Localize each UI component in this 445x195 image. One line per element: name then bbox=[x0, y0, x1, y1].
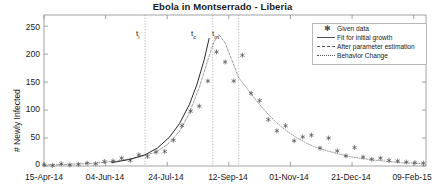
legend-item-fit-initial-growth: Fit for initial growth bbox=[313, 33, 426, 42]
legend-label-3: Behavior Change bbox=[337, 51, 388, 60]
legend-label-0: Given data bbox=[337, 24, 369, 33]
legend-item-after-parameter-estimation: After parameter estimation bbox=[313, 42, 426, 51]
legend-box: ✱ Given data Fit for initial growth Afte… bbox=[312, 23, 427, 65]
legend-item-behavior-change: Behavior Change bbox=[313, 51, 426, 60]
legend-label-1: Fit for initial growth bbox=[337, 33, 392, 42]
legend-label-2: After parameter estimation bbox=[337, 42, 415, 51]
asterisk-marker-icon: ✱ bbox=[315, 24, 337, 33]
dashed-line-icon bbox=[315, 42, 337, 51]
solid-line-icon bbox=[315, 33, 337, 42]
dotted-line-icon bbox=[315, 51, 337, 60]
figure-canvas: Ebola in Montserrado - Liberia # Newly I… bbox=[0, 0, 445, 195]
legend-item-given-data: ✱ Given data bbox=[313, 24, 426, 33]
